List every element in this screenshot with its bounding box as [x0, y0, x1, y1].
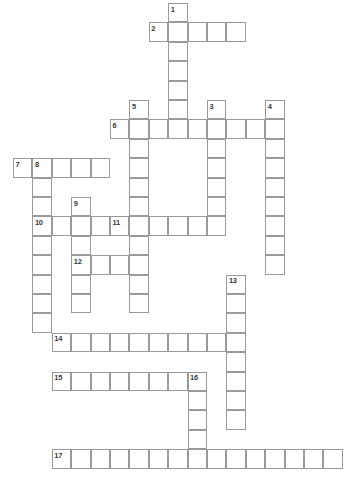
- crossword-cell[interactable]: [226, 294, 245, 313]
- crossword-cell[interactable]: [265, 449, 284, 468]
- crossword-cell[interactable]: [265, 158, 284, 177]
- crossword-cell[interactable]: [71, 275, 90, 294]
- crossword-cell[interactable]: [226, 333, 245, 352]
- crossword-cell[interactable]: [110, 255, 129, 274]
- crossword-cell[interactable]: [207, 22, 226, 41]
- crossword-cell[interactable]: [226, 119, 245, 138]
- crossword-cell[interactable]: [226, 22, 245, 41]
- crossword-cell[interactable]: [226, 352, 245, 371]
- crossword-cell[interactable]: [226, 410, 245, 429]
- crossword-cell[interactable]: [129, 197, 148, 216]
- crossword-cell[interactable]: [110, 372, 129, 391]
- crossword-cell[interactable]: [168, 22, 187, 41]
- crossword-cell[interactable]: [188, 119, 207, 138]
- crossword-cell[interactable]: 17: [52, 449, 71, 468]
- crossword-cell[interactable]: [246, 119, 265, 138]
- crossword-cell[interactable]: [265, 178, 284, 197]
- crossword-cell[interactable]: [149, 216, 168, 235]
- crossword-grid[interactable]: 1234567810912111314151617: [0, 0, 344, 496]
- crossword-cell[interactable]: [52, 158, 71, 177]
- crossword-cell[interactable]: [207, 139, 226, 158]
- crossword-cell[interactable]: [71, 449, 90, 468]
- crossword-cell[interactable]: [149, 333, 168, 352]
- crossword-cell[interactable]: [285, 449, 304, 468]
- crossword-cell[interactable]: [129, 158, 148, 177]
- crossword-cell[interactable]: [110, 333, 129, 352]
- crossword-cell[interactable]: [129, 275, 148, 294]
- crossword-cell[interactable]: [226, 449, 245, 468]
- crossword-cell[interactable]: 6: [110, 119, 129, 138]
- crossword-cell[interactable]: [32, 255, 51, 274]
- crossword-cell[interactable]: [226, 391, 245, 410]
- crossword-cell[interactable]: 9: [71, 197, 90, 216]
- crossword-cell[interactable]: [265, 139, 284, 158]
- crossword-cell[interactable]: [168, 42, 187, 61]
- crossword-cell[interactable]: 12: [71, 255, 90, 274]
- crossword-cell[interactable]: [32, 197, 51, 216]
- crossword-cell[interactable]: [265, 255, 284, 274]
- crossword-cell[interactable]: [32, 178, 51, 197]
- crossword-cell[interactable]: [265, 216, 284, 235]
- crossword-cell[interactable]: [129, 119, 148, 138]
- crossword-cell[interactable]: 11: [110, 216, 129, 235]
- crossword-cell[interactable]: [207, 216, 226, 235]
- crossword-cell[interactable]: [129, 178, 148, 197]
- crossword-cell[interactable]: [265, 236, 284, 255]
- crossword-cell[interactable]: [168, 81, 187, 100]
- crossword-cell[interactable]: [129, 449, 148, 468]
- crossword-cell[interactable]: [168, 100, 187, 119]
- crossword-cell[interactable]: [188, 22, 207, 41]
- crossword-cell[interactable]: [129, 333, 148, 352]
- crossword-cell[interactable]: [91, 255, 110, 274]
- crossword-cell[interactable]: [129, 372, 148, 391]
- crossword-cell[interactable]: [304, 449, 323, 468]
- crossword-cell[interactable]: 10: [32, 216, 51, 235]
- crossword-cell[interactable]: [71, 216, 90, 235]
- crossword-cell[interactable]: [207, 158, 226, 177]
- crossword-cell[interactable]: [129, 294, 148, 313]
- crossword-cell[interactable]: [188, 430, 207, 449]
- crossword-cell[interactable]: [188, 449, 207, 468]
- crossword-cell[interactable]: 1: [168, 3, 187, 22]
- crossword-cell[interactable]: [52, 216, 71, 235]
- crossword-cell[interactable]: [91, 333, 110, 352]
- crossword-cell[interactable]: [32, 275, 51, 294]
- crossword-cell[interactable]: 14: [52, 333, 71, 352]
- crossword-cell[interactable]: [32, 236, 51, 255]
- crossword-cell[interactable]: [207, 449, 226, 468]
- crossword-cell[interactable]: [71, 236, 90, 255]
- crossword-cell[interactable]: 7: [13, 158, 32, 177]
- crossword-cell[interactable]: [129, 255, 148, 274]
- crossword-cell[interactable]: 4: [265, 100, 284, 119]
- crossword-cell[interactable]: [168, 333, 187, 352]
- crossword-cell[interactable]: [207, 178, 226, 197]
- crossword-cell[interactable]: [207, 197, 226, 216]
- crossword-cell[interactable]: [91, 158, 110, 177]
- crossword-cell[interactable]: [323, 449, 342, 468]
- crossword-cell[interactable]: [129, 236, 148, 255]
- crossword-cell[interactable]: [149, 449, 168, 468]
- crossword-cell[interactable]: [32, 313, 51, 332]
- crossword-cell[interactable]: [207, 333, 226, 352]
- crossword-cell[interactable]: [265, 197, 284, 216]
- crossword-cell[interactable]: [168, 372, 187, 391]
- crossword-cell[interactable]: [168, 61, 187, 80]
- crossword-cell[interactable]: 8: [32, 158, 51, 177]
- crossword-cell[interactable]: [188, 333, 207, 352]
- crossword-cell[interactable]: [71, 372, 90, 391]
- crossword-cell[interactable]: [207, 119, 226, 138]
- crossword-cell[interactable]: [246, 449, 265, 468]
- crossword-cell[interactable]: [188, 410, 207, 429]
- crossword-cell[interactable]: [265, 119, 284, 138]
- crossword-cell[interactable]: [71, 294, 90, 313]
- crossword-cell[interactable]: [91, 216, 110, 235]
- crossword-cell[interactable]: [71, 158, 90, 177]
- crossword-cell[interactable]: [129, 139, 148, 158]
- crossword-cell[interactable]: [168, 216, 187, 235]
- crossword-cell[interactable]: [91, 449, 110, 468]
- crossword-cell[interactable]: [188, 391, 207, 410]
- crossword-cell[interactable]: 5: [129, 100, 148, 119]
- crossword-cell[interactable]: 3: [207, 100, 226, 119]
- crossword-cell[interactable]: [110, 449, 129, 468]
- crossword-cell[interactable]: [32, 294, 51, 313]
